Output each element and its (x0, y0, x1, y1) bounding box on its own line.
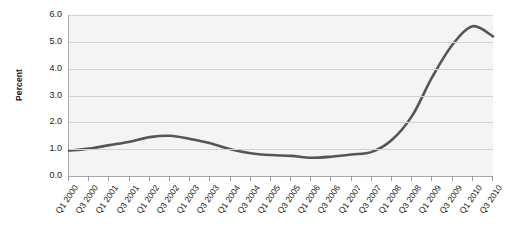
x-axis-tick (452, 176, 453, 181)
gridline (69, 15, 493, 16)
gridline (69, 69, 493, 70)
x-axis-tick (290, 176, 291, 181)
x-axis-tick (169, 176, 170, 181)
x-axis-tick (230, 176, 231, 181)
plot-area (68, 15, 493, 177)
x-axis-tick (88, 176, 89, 181)
line-chart: Percent 6.05.04.03.02.01.00.0 Q1 2000Q3 … (0, 0, 514, 251)
x-axis-tick (68, 176, 69, 181)
y-axis-tick-label: 0.0 (36, 171, 62, 180)
gridline (69, 122, 493, 123)
y-axis-tick-label: 4.0 (36, 64, 62, 73)
x-axis-tick (149, 176, 150, 181)
x-axis-tick-labels: Q1 2000Q3 2000Q1 2001Q3 2001Q1 2002Q3 20… (68, 183, 492, 251)
x-axis-tick (129, 176, 130, 181)
x-axis-tick (431, 176, 432, 181)
x-axis-tick (351, 176, 352, 181)
x-axis-tick (492, 176, 493, 181)
y-axis-tick-label: 6.0 (36, 10, 62, 19)
x-axis-tick (391, 176, 392, 181)
x-axis-tick (209, 176, 210, 181)
x-axis-tick (330, 176, 331, 181)
x-axis-tick (371, 176, 372, 181)
x-axis-tick (250, 176, 251, 181)
x-axis-tick (411, 176, 412, 181)
x-axis-tick (270, 176, 271, 181)
gridline (69, 96, 493, 97)
y-axis-tick-label: 1.0 (36, 144, 62, 153)
y-axis-tick-label: 3.0 (36, 91, 62, 100)
gridline (69, 42, 493, 43)
x-axis-tick (189, 176, 190, 181)
y-axis-tick-label: 2.0 (36, 117, 62, 126)
y-axis-title: Percent (14, 55, 24, 115)
x-axis-ticks (68, 176, 492, 182)
x-axis-tick (108, 176, 109, 181)
x-axis-tick (472, 176, 473, 181)
x-axis-tick (310, 176, 311, 181)
gridline (69, 149, 493, 150)
y-axis-tick-label: 5.0 (36, 37, 62, 46)
